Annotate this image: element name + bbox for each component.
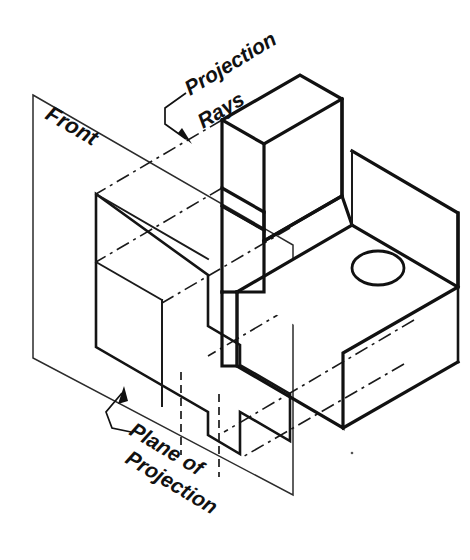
base-slab-front-bottom [343,362,458,428]
projection-ray-1 [96,120,222,194]
technical-drawing-figure: Front Projection Rays Plane of Projectio… [0,0,470,560]
front-view-edge-line [96,194,208,259]
projection-rays-label-line1: Projection [180,27,280,100]
projection-rays-arrowhead [178,128,192,144]
projection-ray-2 [96,188,222,262]
front-view-base-line [96,262,162,300]
front-label: Front [42,101,105,152]
projection-illustration-svg: Front Projection Rays Plane of Projectio… [0,0,470,560]
step-front-to-base [342,196,352,225]
lower-block-front-left-corner [222,292,237,366]
projected-front-view [96,194,290,477]
scan-speck [351,452,354,455]
projection-ray-5 [241,364,404,458]
front-label-group: Front [42,101,105,152]
